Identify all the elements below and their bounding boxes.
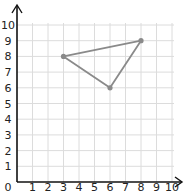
y-tick-label: 1 xyxy=(5,160,12,173)
x-tick-label: 8 xyxy=(138,181,145,193)
x-tick-label: 0 xyxy=(5,181,12,193)
y-tick-label: 10 xyxy=(1,19,15,32)
y-tick-labels: 12345678910 xyxy=(1,19,15,173)
grid-lines xyxy=(17,23,174,182)
x-tick-label: 7 xyxy=(122,181,129,193)
x-tick-label: 9 xyxy=(153,181,160,193)
x-tick-label: 4 xyxy=(76,181,83,193)
y-tick-label: 7 xyxy=(5,66,12,79)
y-tick-label: 5 xyxy=(5,98,12,111)
y-tick-label: 8 xyxy=(5,50,12,63)
triangle-outline xyxy=(64,41,142,88)
y-tick-label: 2 xyxy=(5,145,12,158)
x-tick-label: 1 xyxy=(29,181,36,193)
y-tick-label: 4 xyxy=(5,113,12,126)
y-tick-label: 6 xyxy=(5,82,12,95)
x-tick-label: 10 xyxy=(165,181,179,193)
triangle-shape xyxy=(61,38,144,90)
vertex-point xyxy=(107,85,112,90)
x-tick-label: 2 xyxy=(45,181,52,193)
x-tick-label: 6 xyxy=(107,181,114,193)
x-tick-labels: 012345678910 xyxy=(5,181,180,193)
y-tick-label: 9 xyxy=(5,35,12,48)
vertex-point xyxy=(138,38,143,43)
vertex-point xyxy=(61,54,66,59)
y-tick-label: 3 xyxy=(5,129,12,142)
x-tick-label: 3 xyxy=(60,181,67,193)
coordinate-grid-chart: 012345678910 12345678910 xyxy=(0,0,185,193)
x-tick-label: 5 xyxy=(91,181,98,193)
